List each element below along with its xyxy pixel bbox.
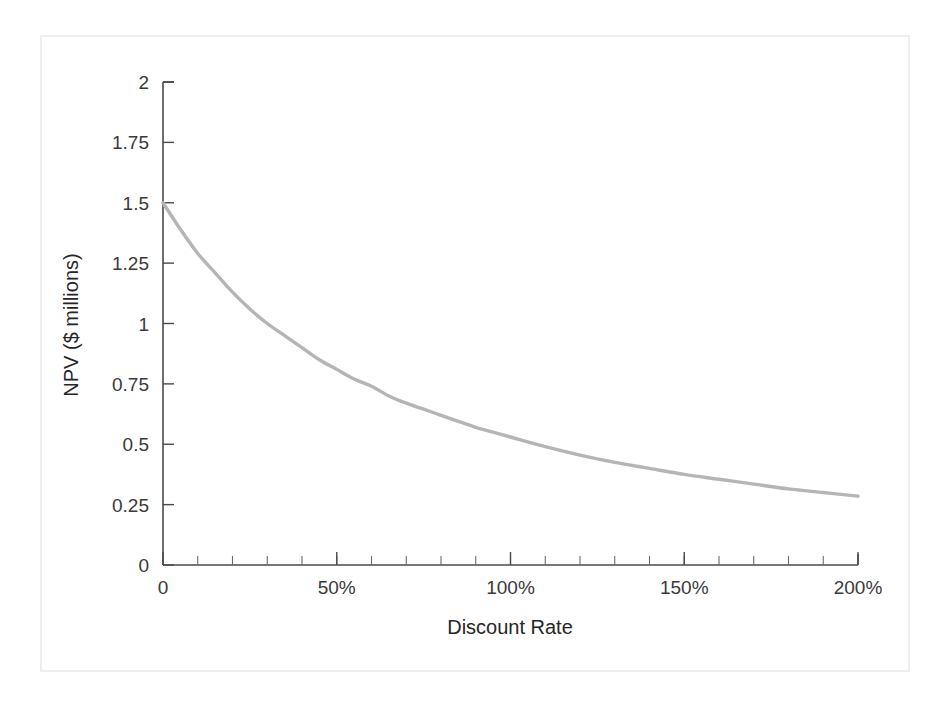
x-axis-title: Discount Rate [447, 616, 573, 638]
y-tick-label: 1.25 [112, 253, 149, 274]
x-axis-tick-labels: 050%100%150%200% [158, 577, 883, 598]
npv-curve [163, 203, 858, 496]
x-tick-label: 0 [158, 577, 169, 598]
figure-root: 00.250.50.7511.251.51.752 050%100%150%20… [0, 0, 952, 707]
y-tick-label: 1 [138, 314, 149, 335]
x-tick-label: 100% [486, 577, 535, 598]
y-tick-label: 1.75 [112, 132, 149, 153]
y-tick-label: 0 [138, 555, 149, 576]
x-tick-label: 200% [834, 577, 883, 598]
y-tick-label: 0.5 [123, 434, 149, 455]
y-tick-label: 0.25 [112, 495, 149, 516]
y-axis-tick-labels: 00.250.50.7511.251.51.752 [112, 72, 149, 576]
y-tick-label: 2 [138, 72, 149, 93]
x-tick-label: 50% [318, 577, 356, 598]
x-tick-label: 150% [660, 577, 709, 598]
y-tick-label: 0.75 [112, 374, 149, 395]
y-tick-label: 1.5 [123, 193, 149, 214]
y-axis-title: NPV ($ millions) [60, 253, 82, 396]
y-axis-ticks [163, 82, 174, 565]
npv-profile-chart: 00.250.50.7511.251.51.752 050%100%150%20… [0, 0, 952, 707]
